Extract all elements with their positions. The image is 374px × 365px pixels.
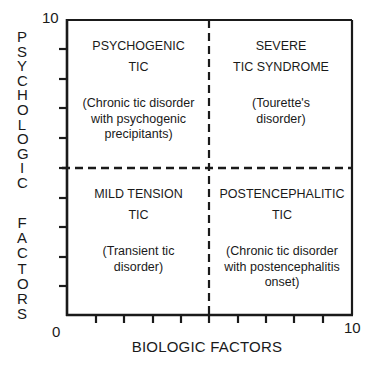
quadrant-mild-tension-tic: MILD TENSION TIC (Transient tic disorder… bbox=[70, 184, 207, 275]
quadrant-title: PSYCHOGENIC TIC bbox=[70, 36, 207, 78]
quadrant-severe-tic-syndrome: SEVERE TIC SYNDROME (Tourette's disorder… bbox=[212, 36, 350, 127]
quadrant-title-line: PSYCHOGENIC bbox=[70, 36, 207, 57]
quadrant-title-line: TIC bbox=[70, 57, 207, 78]
quadrant-postencephalitic-tic: POSTENCEPHALITIC TIC (Chronic tic disord… bbox=[212, 184, 352, 291]
quadrant-title: SEVERE TIC SYNDROME bbox=[212, 36, 350, 78]
quadrant-desc-line: (Chronic tic disorder bbox=[212, 244, 352, 260]
quadrant-desc-line: (Chronic tic disorder bbox=[70, 96, 207, 112]
quadrant-title-line: POSTENCEPHALITIC bbox=[212, 184, 352, 205]
quadrant-title-line: TIC SYNDROME bbox=[212, 57, 350, 78]
quadrant-description: (Chronic tic disorder with psychogenic p… bbox=[70, 96, 207, 143]
quadrant-desc-line: onset) bbox=[212, 275, 352, 291]
quadrant-desc-line: (Tourette's bbox=[212, 96, 350, 112]
quadrant-description: (Tourette's disorder) bbox=[212, 96, 350, 127]
quadrant-title: POSTENCEPHALITIC TIC bbox=[212, 184, 352, 226]
quadrant-desc-line: with postencephalitis bbox=[212, 260, 352, 276]
quadrant-psychogenic-tic: PSYCHOGENIC TIC (Chronic tic disorder wi… bbox=[70, 36, 207, 143]
quadrant-title-line: TIC bbox=[70, 205, 207, 226]
quadrant-title-line: SEVERE bbox=[212, 36, 350, 57]
quadrant-desc-line: disorder) bbox=[70, 260, 207, 276]
quadrant-description: (Transient tic disorder) bbox=[70, 244, 207, 275]
quadrant-desc-line: precipitants) bbox=[70, 127, 207, 143]
quadrant-desc-line: with psychogenic bbox=[70, 112, 207, 128]
quadrant-title: MILD TENSION TIC bbox=[70, 184, 207, 226]
quadrant-desc-line: (Transient tic bbox=[70, 244, 207, 260]
y-axis-label-word: FACTORS bbox=[17, 215, 27, 321]
x-axis-label: BIOLOGIC FACTORS bbox=[0, 338, 374, 355]
x-max-label: 10 bbox=[344, 319, 361, 336]
quadrant-desc-line: disorder) bbox=[212, 112, 350, 128]
y-max-label: 10 bbox=[42, 9, 59, 26]
quadrant-title-line: MILD TENSION bbox=[70, 184, 207, 205]
quadrant-title-line: TIC bbox=[212, 205, 352, 226]
y-axis-label-word: PSYCHOLOGIC bbox=[17, 30, 27, 191]
y-axis-label-factors: FACTORS bbox=[12, 215, 32, 321]
quadrant-description: (Chronic tic disorder with postencephali… bbox=[212, 244, 352, 291]
y-axis-label-psychologic: PSYCHOLOGIC bbox=[12, 30, 32, 191]
